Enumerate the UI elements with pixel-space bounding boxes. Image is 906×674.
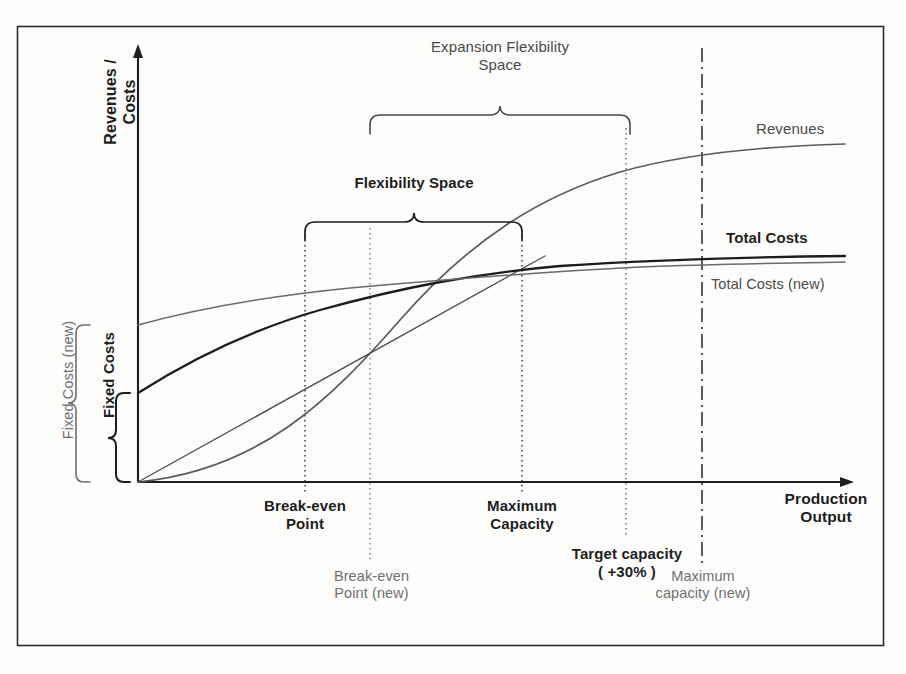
curve-revenue-linear	[138, 256, 545, 482]
series-label-total-costs: Total Costs	[726, 229, 808, 247]
series-label-revenues: Revenues	[756, 120, 824, 138]
marker-lines	[305, 48, 702, 563]
brace-label-fixed-costs-new: Fixed Costs (new)	[60, 270, 77, 490]
brace-label-expansion-flexibility-space: Expansion Flexibility Space	[390, 38, 610, 73]
brace-label-flexibility-space: Flexibility Space	[314, 174, 514, 192]
curve-revenues	[138, 144, 845, 482]
marker-label-break-even-point-new: Break-even Point (new)	[294, 568, 449, 602]
marker-label-maximum-capacity: Maximum Capacity	[452, 497, 592, 532]
marker-label-break-even-point: Break-even Point	[235, 497, 375, 532]
brace-group	[68, 106, 630, 482]
figure-frame	[18, 27, 884, 646]
curve-group	[138, 144, 845, 482]
axis-group	[133, 44, 854, 487]
diagram-canvas: Revenues / Costs Production Output Reven…	[0, 0, 906, 674]
marker-label-maximum-capacity-new: Maximum capacity (new)	[622, 568, 784, 602]
series-label-total-costs-new: Total Costs (new)	[711, 276, 825, 293]
brace-expansion-flexibility-space	[370, 106, 630, 134]
y-axis-label: Revenues / Costs	[102, 32, 140, 172]
brace-label-fixed-costs: Fixed Costs	[100, 280, 118, 470]
x-axis-label: Production Output	[762, 490, 890, 527]
x-axis-arrowhead	[840, 477, 854, 487]
curve-total-costs-new	[138, 262, 845, 325]
